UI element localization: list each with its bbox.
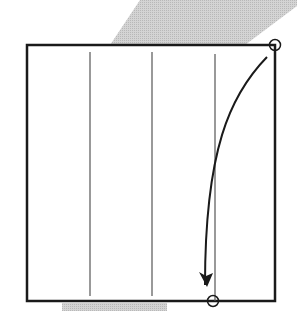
top-shadow-band <box>110 0 297 45</box>
origami-diagram <box>0 0 297 311</box>
bottom-shadow-band <box>62 303 167 311</box>
paper-square <box>27 45 275 301</box>
